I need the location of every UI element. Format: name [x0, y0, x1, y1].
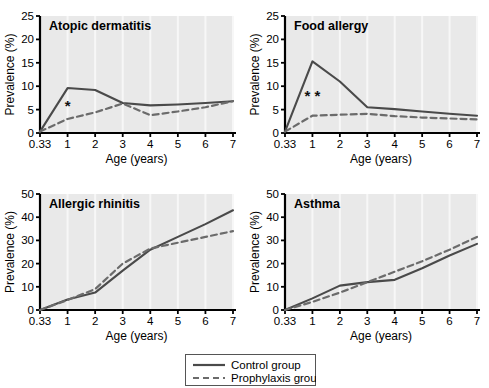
x-tick-label: 6: [446, 315, 452, 327]
x-tick-label: 7: [474, 138, 480, 150]
y-tick-label: 20: [21, 258, 34, 270]
x-tick-label: 2: [92, 138, 98, 150]
x-axis-label: Age (years): [105, 329, 167, 343]
x-axis-label: Age (years): [105, 152, 167, 166]
y-tick-label: 20: [266, 33, 279, 45]
y-axis-ticks: 0510152025: [266, 10, 285, 139]
x-tick-label: 4: [392, 138, 399, 150]
y-tick-label: 10: [21, 80, 34, 92]
panel-allergic-rhinitis-svg: 010203040500.331234567Age (years)Prevale…: [0, 180, 245, 355]
panel-food-allergy-svg: 05101520250.331234567Age (years)Prevalen…: [245, 0, 489, 180]
x-tick-label: 4: [392, 315, 399, 327]
x-tick-label: 6: [446, 138, 452, 150]
y-axis-label: Prevalence (%): [3, 33, 17, 115]
y-axis-ticks: 01020304050: [266, 188, 285, 316]
panel-atopic-dermatitis: 05101520250.331234567Age (years)Prevalen…: [0, 0, 245, 180]
x-tick-label: 7: [474, 315, 480, 327]
y-tick-label: 40: [21, 211, 34, 223]
x-tick-label: 5: [175, 138, 181, 150]
panel-asthma-svg: 010203040500.331234567Age (years)Prevale…: [245, 180, 489, 355]
legend-label: Control group: [231, 359, 301, 371]
x-tick-label: 5: [419, 315, 425, 327]
significance-asterisk: *: [65, 97, 71, 114]
y-axis-ticks: 01020304050: [21, 188, 40, 316]
panel-title: Asthma: [294, 197, 341, 211]
x-tick-label: 3: [120, 138, 126, 150]
x-tick-label: 4: [147, 138, 154, 150]
x-axis-label: Age (years): [350, 329, 412, 343]
x-tick-label: 1: [64, 315, 70, 327]
x-tick-label: 5: [175, 315, 181, 327]
figure-legend-svg: Control groupProphylaxis group: [185, 354, 316, 386]
x-tick-label: 3: [120, 315, 126, 327]
panel-asthma: 010203040500.331234567Age (years)Prevale…: [245, 180, 489, 355]
figure-legend: Control groupProphylaxis group: [185, 354, 316, 386]
y-tick-label: 25: [21, 10, 34, 22]
y-axis-ticks: 0510152025: [21, 10, 40, 139]
x-axis-label: Age (years): [350, 152, 412, 166]
y-tick-label: 5: [28, 104, 34, 116]
x-tick-label: 6: [202, 138, 208, 150]
panel-title: Atopic dermatitis: [49, 19, 151, 33]
x-tick-label: 7: [230, 138, 236, 150]
y-tick-label: 30: [266, 234, 279, 246]
panel-atopic-dermatitis-svg: 05101520250.331234567Age (years)Prevalen…: [0, 0, 245, 180]
y-tick-label: 15: [21, 57, 34, 69]
y-axis-label: Prevalence (%): [248, 211, 262, 293]
y-tick-label: 50: [266, 188, 279, 200]
y-tick-label: 25: [266, 10, 279, 22]
x-tick-label: 1: [309, 138, 315, 150]
y-tick-label: 10: [21, 281, 34, 293]
y-axis-label: Prevalence (%): [248, 33, 262, 115]
y-tick-label: 30: [21, 234, 34, 246]
x-tick-label: 3: [364, 138, 370, 150]
plot-background: [285, 194, 477, 310]
significance-markers: *: [65, 97, 71, 114]
x-tick-label: 0.33: [274, 138, 296, 150]
x-tick-label: 6: [202, 315, 208, 327]
x-tick-label: 7: [230, 315, 236, 327]
panel-allergic-rhinitis: 010203040500.331234567Age (years)Prevale…: [0, 180, 245, 355]
x-tick-label: 2: [337, 138, 343, 150]
x-axis-ticks: 0.331234567: [29, 133, 236, 150]
y-tick-label: 5: [273, 104, 279, 116]
y-tick-label: 10: [266, 80, 279, 92]
y-axis-label: Prevalence (%): [3, 211, 17, 293]
panel-title: Food allergy: [294, 19, 368, 33]
x-axis-ticks: 0.331234567: [274, 310, 480, 327]
panel-title: Allergic rhinitis: [49, 197, 140, 211]
x-tick-label: 1: [64, 138, 70, 150]
significance-asterisk: *: [305, 87, 311, 104]
x-tick-label: 2: [337, 315, 343, 327]
x-tick-label: 4: [147, 315, 154, 327]
y-tick-label: 40: [266, 211, 279, 223]
y-tick-label: 10: [266, 281, 279, 293]
x-tick-label: 0.33: [274, 315, 296, 327]
significance-asterisk: *: [314, 87, 320, 104]
plot-background: [40, 194, 233, 310]
y-tick-label: 20: [21, 33, 34, 45]
plot-background: [40, 16, 233, 133]
x-tick-label: 5: [419, 138, 425, 150]
y-tick-label: 20: [266, 258, 279, 270]
x-axis-ticks: 0.331234567: [29, 310, 236, 327]
x-tick-label: 0.33: [29, 315, 51, 327]
x-tick-label: 2: [92, 315, 98, 327]
y-tick-label: 15: [266, 57, 279, 69]
legend-label: Prophylaxis group: [231, 372, 316, 384]
prevalence-figure: 05101520250.331234567Age (years)Prevalen…: [0, 0, 489, 388]
x-axis-ticks: 0.331234567: [274, 133, 480, 150]
x-tick-label: 3: [364, 315, 370, 327]
x-tick-label: 0.33: [29, 138, 51, 150]
x-tick-label: 1: [309, 315, 315, 327]
y-tick-label: 50: [21, 188, 34, 200]
panel-food-allergy: 05101520250.331234567Age (years)Prevalen…: [245, 0, 489, 180]
